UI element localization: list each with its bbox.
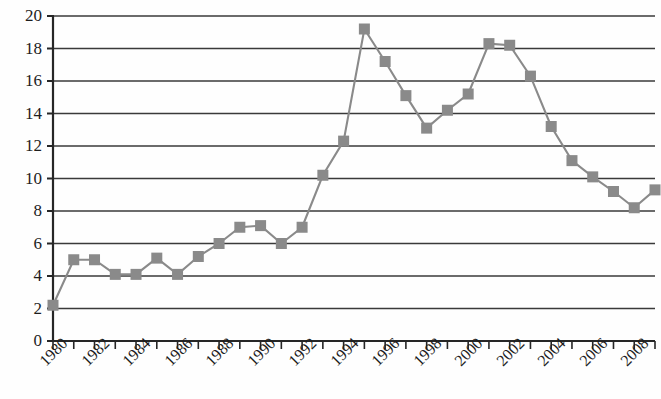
line-chart: 02468101214161820 1980198219841986198819… xyxy=(0,0,661,399)
data-point xyxy=(608,186,619,197)
data-point xyxy=(276,238,287,249)
data-point xyxy=(255,220,266,231)
gridlines xyxy=(53,16,655,309)
y-axis-tick-label: 16 xyxy=(6,72,42,89)
y-axis-tick-label: 10 xyxy=(6,170,42,187)
y-axis-tick-label: 8 xyxy=(6,202,42,219)
data-point xyxy=(68,254,79,265)
data-point xyxy=(629,202,640,213)
data-point xyxy=(214,238,225,249)
data-point xyxy=(338,136,349,147)
data-point xyxy=(317,170,328,181)
y-axis-tick-label: 6 xyxy=(6,235,42,252)
data-point xyxy=(400,90,411,101)
data-series-line xyxy=(53,29,655,305)
data-point xyxy=(566,155,577,166)
y-axis-tick-label: 20 xyxy=(6,7,42,24)
data-point xyxy=(421,123,432,134)
data-point xyxy=(110,269,121,280)
y-axis-tick-label: 12 xyxy=(6,137,42,154)
data-point xyxy=(297,222,308,233)
data-point xyxy=(131,269,142,280)
data-point xyxy=(546,121,557,132)
y-axis-tick-label: 14 xyxy=(6,105,42,122)
data-point xyxy=(234,222,245,233)
y-axis-tick-label: 2 xyxy=(6,300,42,317)
data-point xyxy=(359,24,370,35)
data-point xyxy=(151,253,162,264)
data-point xyxy=(483,38,494,49)
data-point xyxy=(504,40,515,51)
data-point-markers xyxy=(48,24,661,311)
data-point xyxy=(48,300,59,311)
data-point xyxy=(650,184,661,195)
y-axis-tick-label: 4 xyxy=(6,267,42,284)
data-point xyxy=(172,269,183,280)
data-point xyxy=(89,254,100,265)
data-point xyxy=(380,56,391,67)
data-point xyxy=(587,171,598,182)
y-axis-tick-label: 0 xyxy=(6,332,42,349)
data-point xyxy=(193,251,204,262)
y-axis-tick-label: 18 xyxy=(6,40,42,57)
data-point xyxy=(463,89,474,100)
data-point xyxy=(525,71,536,82)
data-point xyxy=(442,105,453,116)
